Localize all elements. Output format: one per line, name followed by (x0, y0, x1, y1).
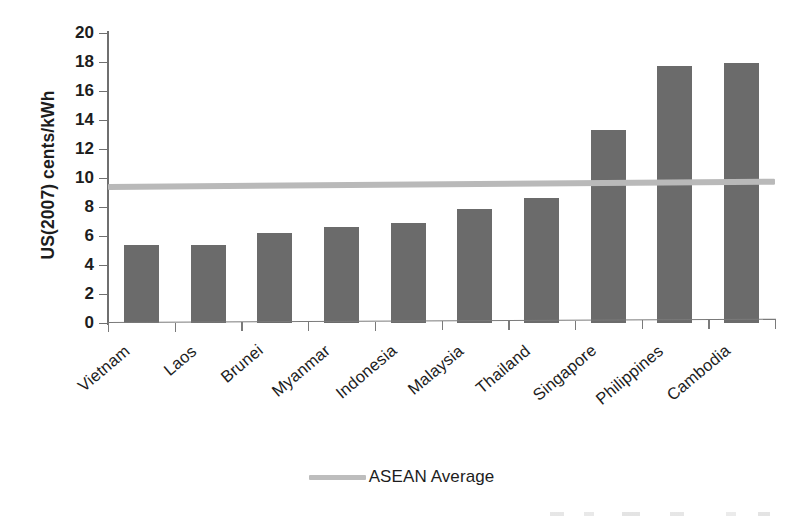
chart-legend: ASEAN Average (0, 462, 803, 492)
page-scan-artifact (550, 512, 790, 516)
x-label-cambodia: Cambodia (663, 341, 734, 405)
legend-line-swatch (309, 475, 366, 480)
x-label-philippines: Philippines (592, 341, 667, 408)
x-label-indonesia: Indonesia (332, 341, 400, 403)
x-label-malaysia: Malaysia (404, 341, 467, 398)
x-label-thailand: Thailand (472, 341, 534, 397)
x-label-laos: Laos (160, 341, 200, 379)
x-label-brunei: Brunei (217, 341, 267, 387)
legend-label-asean-average: ASEAN Average (369, 467, 495, 487)
x-label-singapore: Singapore (529, 341, 600, 405)
chart-figure: US(2007) cents/kWh 02468101214161820 Vie… (0, 0, 803, 518)
x-label-vietnam: Vietnam (74, 341, 133, 395)
x-label-myanmar: Myanmar (268, 341, 334, 401)
x-axis-tick-labels: VietnamLaosBruneiMyanmarIndonesiaMalaysi… (0, 0, 803, 518)
